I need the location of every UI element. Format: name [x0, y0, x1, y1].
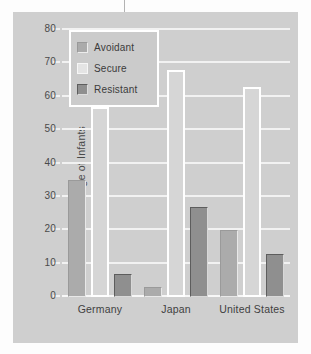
- bar-japan-avoidant[interactable]: [144, 287, 162, 297]
- page-root: Percentage of Infants 80706050403020100: [0, 0, 311, 354]
- y-tick-label-20: 20: [44, 223, 56, 234]
- y-tick-label-70: 70: [44, 56, 56, 67]
- chart-panel: Percentage of Infants 80706050403020100: [13, 12, 298, 343]
- legend-item-secure[interactable]: Secure: [77, 58, 151, 79]
- y-tick-label-50: 50: [44, 123, 56, 134]
- chart-legend: Avoidant Secure Resistant: [69, 30, 159, 107]
- bar-germany-secure[interactable]: [91, 107, 109, 297]
- y-tick-label-40: 40: [44, 156, 56, 167]
- bar-group-united-states: [214, 30, 290, 297]
- x-axis-labels: Germany Japan United States: [62, 303, 290, 321]
- bar-japan-secure[interactable]: [167, 70, 185, 297]
- bar-germany-resistant[interactable]: [114, 274, 132, 297]
- legend-swatch-secure-icon: [77, 63, 88, 74]
- bar-united-states-resistant[interactable]: [266, 254, 284, 297]
- x-label-japan: Japan: [138, 303, 214, 321]
- legend-swatch-avoidant-icon: [77, 42, 88, 53]
- legend-label-avoidant: Avoidant: [94, 42, 134, 53]
- y-tick-label-0: 0: [50, 290, 56, 301]
- bar-united-states-secure[interactable]: [243, 87, 261, 297]
- legend-item-resistant[interactable]: Resistant: [77, 79, 151, 100]
- y-tick-label-30: 30: [44, 189, 56, 200]
- y-tick-label-80: 80: [44, 23, 56, 34]
- bar-japan-resistant[interactable]: [190, 207, 208, 297]
- y-tick-label-60: 60: [44, 89, 56, 100]
- y-tick-label-10: 10: [44, 256, 56, 267]
- x-label-united-states: United States: [214, 303, 290, 321]
- legend-item-avoidant[interactable]: Avoidant: [77, 37, 151, 58]
- x-label-germany: Germany: [62, 303, 138, 321]
- legend-label-secure: Secure: [94, 63, 127, 74]
- bar-germany-avoidant[interactable]: [68, 180, 86, 297]
- bar-united-states-avoidant[interactable]: [220, 230, 238, 297]
- legend-swatch-resistant-icon: [77, 84, 88, 95]
- legend-label-resistant: Resistant: [94, 84, 138, 95]
